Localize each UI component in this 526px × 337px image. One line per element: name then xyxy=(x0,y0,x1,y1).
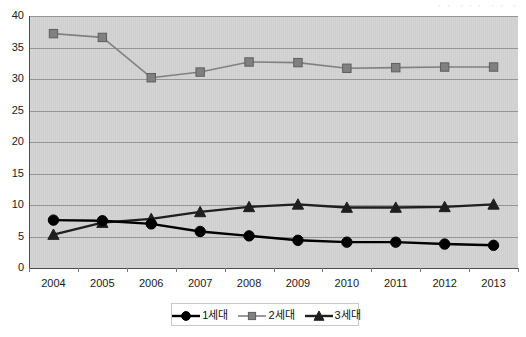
legend-entry-1세대[interactable]: 1세대 xyxy=(171,309,228,323)
data-point-square xyxy=(147,74,155,82)
data-point-circle xyxy=(195,226,205,236)
legend: 1세대2세대3세대 xyxy=(171,303,359,326)
data-point-square xyxy=(249,312,256,319)
data-point-square xyxy=(294,58,302,66)
data-point-circle xyxy=(293,235,303,245)
data-point-square xyxy=(343,64,351,72)
legend-entry-3세대[interactable]: 3세대 xyxy=(304,309,361,323)
plot-area xyxy=(0,0,526,337)
data-point-circle xyxy=(146,219,156,229)
data-point-circle xyxy=(48,215,58,225)
legend-label: 2세대 xyxy=(268,310,294,321)
data-point-circle xyxy=(439,239,449,249)
legend-entry-2세대[interactable]: 2세대 xyxy=(237,309,294,323)
data-point-square xyxy=(489,63,497,71)
legend-label: 3세대 xyxy=(335,310,361,321)
data-point-square xyxy=(98,33,106,41)
data-point-square xyxy=(392,63,400,71)
data-point-square xyxy=(49,29,57,37)
data-point-circle xyxy=(97,216,107,226)
legend-swatch-square-icon xyxy=(237,309,267,323)
legend-swatch-triangle-icon xyxy=(304,309,334,323)
data-point-circle xyxy=(342,237,352,247)
data-point-circle xyxy=(488,240,498,250)
data-point-circle xyxy=(391,237,401,247)
data-point-square xyxy=(440,63,448,71)
legend-label: 1세대 xyxy=(202,310,228,321)
data-point-circle xyxy=(244,231,254,241)
line-chart: ・・ ・・・ ・・ ・ 0510152025303540 20042005200… xyxy=(0,0,526,337)
data-point-square xyxy=(245,58,253,66)
data-point-circle xyxy=(182,311,191,320)
legend-swatch-circle-icon xyxy=(171,309,201,323)
data-point-square xyxy=(196,68,204,76)
